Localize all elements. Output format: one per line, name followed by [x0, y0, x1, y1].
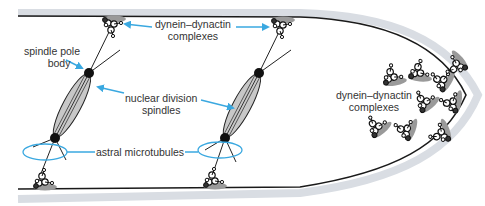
label-spindle-pole-body: spindle pole body — [24, 45, 80, 69]
spindle-pole-body-icon — [84, 68, 94, 78]
dynein-dynactin-icon — [33, 168, 57, 190]
hyphal-tip-diagram: dynein–dynactin complexes spindle pole b… — [0, 0, 485, 206]
astral-ring-icon — [23, 144, 67, 160]
label-dynein-dynactin-tip: dynein–dynactin complexes — [336, 89, 412, 113]
dynein-dynactin-icon — [102, 15, 126, 37]
astral-ring-icon — [198, 142, 242, 158]
label-dynein-dynactin-top: dynein–dynactin complexes — [155, 18, 231, 42]
dynein-dynactin-icon — [271, 16, 295, 38]
dynein-dynactin-icon — [203, 167, 227, 189]
label-nuclear-division-spindles: nuclear division spindles — [125, 92, 197, 116]
label-arrows — [66, 24, 268, 152]
diagram-canvas — [0, 0, 485, 206]
spindle-pole-body-icon — [50, 133, 60, 143]
label-astral-microtubules: astral microtubules — [96, 146, 184, 158]
spindle-pole-body-icon — [254, 68, 264, 78]
